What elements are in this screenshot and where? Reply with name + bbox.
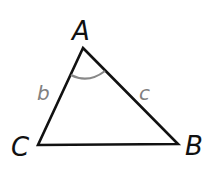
- angle-a-arc: [71, 71, 105, 79]
- triangle-diagram: A B C b c: [0, 0, 210, 185]
- triangle-abc: [38, 48, 178, 145]
- vertex-label-a: A: [70, 16, 90, 46]
- vertex-label-c: C: [11, 132, 30, 162]
- vertex-label-b: B: [185, 131, 203, 161]
- side-label-c: c: [139, 81, 150, 105]
- side-label-b: b: [37, 81, 50, 105]
